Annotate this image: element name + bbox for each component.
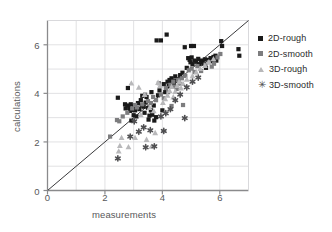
data-point-2d-smooth — [108, 134, 112, 138]
data-point-2d-rough — [237, 54, 241, 58]
data-point-2d-rough — [146, 117, 150, 121]
legend-label: 3D-rough — [269, 64, 307, 74]
data-point-3d-rough — [126, 144, 132, 149]
data-point-3d-rough — [152, 130, 158, 135]
legend-item-3d-smooth[interactable]: ✳3D-smooth — [258, 78, 314, 92]
data-point-3d-rough — [144, 137, 150, 142]
data-point-2d-rough — [116, 96, 120, 100]
data-point-2d-rough — [190, 62, 194, 66]
data-point-3d-smooth — [143, 145, 148, 150]
data-point-3d-smooth — [152, 144, 157, 149]
data-point-2d-rough — [219, 39, 223, 43]
data-point-2d-rough — [157, 88, 161, 92]
data-point-2d-smooth — [140, 102, 144, 106]
data-point-2d-rough — [155, 38, 159, 42]
data-point-2d-smooth — [195, 64, 199, 68]
square-marker-icon — [258, 51, 263, 56]
data-point-2d-rough — [159, 38, 163, 42]
legend-item-3d-rough[interactable]: 3D-rough — [258, 62, 307, 76]
data-point-2d-smooth — [117, 119, 121, 123]
legend-item-2d-smooth[interactable]: 2D-smooth — [258, 47, 313, 61]
data-point-2d-rough — [192, 44, 196, 48]
y-tick-label: 0 — [24, 185, 40, 196]
triangle-marker-icon — [258, 67, 264, 72]
data-point-3d-rough — [116, 148, 122, 153]
data-point-3d-smooth — [190, 79, 195, 84]
y-tick-label: 2 — [24, 136, 40, 147]
data-point-3d-smooth — [162, 128, 167, 133]
data-point-3d-smooth — [148, 128, 153, 133]
asterisk-marker-icon: ✳ — [258, 82, 264, 88]
data-point-3d-smooth — [164, 111, 169, 116]
data-point-2d-smooth — [159, 92, 163, 96]
data-point-3d-rough — [119, 135, 125, 140]
data-point-2d-rough — [134, 114, 138, 118]
x-axis-title: measurements — [0, 209, 248, 220]
identity-line — [48, 21, 249, 191]
data-point-2d-smooth — [154, 98, 158, 102]
x-tick-label: 0 — [45, 192, 50, 203]
data-point-3d-smooth — [178, 92, 183, 97]
data-point-2d-smooth — [164, 86, 168, 90]
data-point-3d-rough — [136, 84, 142, 89]
data-point-2d-smooth — [171, 80, 175, 84]
data-point-3d-smooth — [196, 75, 201, 80]
x-tick-label: 6 — [217, 192, 222, 203]
x-tick-label: 2 — [102, 192, 107, 203]
data-point-2d-rough — [126, 86, 130, 90]
legend-item-2d-rough[interactable]: 2D-rough — [258, 31, 306, 45]
data-point-2d-rough — [236, 47, 240, 51]
data-point-2d-rough — [142, 111, 146, 115]
data-point-3d-smooth — [168, 107, 173, 112]
data-point-3d-rough — [117, 143, 123, 148]
data-point-2d-rough — [183, 45, 187, 49]
data-point-2d-smooth — [135, 105, 139, 109]
y-tick-label: 4 — [24, 88, 40, 99]
legend-label: 3D-smooth — [269, 80, 314, 90]
data-point-3d-smooth — [159, 114, 164, 119]
data-point-2d-rough — [139, 98, 143, 102]
data-point-2d-smooth — [218, 52, 222, 56]
data-point-3d-smooth — [141, 125, 146, 130]
x-tick-label: 4 — [160, 192, 165, 203]
y-tick-label: 6 — [24, 39, 40, 50]
scatter-chart-figure: 0246 0246 measurements calculations 2D-r… — [0, 0, 332, 232]
data-point-3d-smooth — [132, 119, 137, 124]
data-point-2d-rough — [154, 115, 158, 119]
data-point-2d-rough — [149, 90, 153, 94]
data-point-2d-smooth — [125, 111, 129, 115]
data-point-3d-smooth — [137, 129, 142, 134]
data-point-3d-smooth — [185, 85, 190, 90]
data-point-3d-smooth — [182, 116, 187, 121]
data-point-2d-smooth — [181, 103, 185, 107]
data-point-2d-smooth — [149, 101, 153, 105]
data-point-2d-rough — [220, 44, 224, 48]
data-point-3d-smooth — [116, 156, 121, 161]
data-point-3d-smooth — [128, 134, 133, 139]
identity-reference-line — [48, 21, 249, 191]
data-point-2d-rough — [165, 32, 169, 36]
y-axis-title: calculations — [11, 47, 22, 167]
data-point-2d-smooth — [121, 114, 125, 118]
legend-label: 2D-rough — [268, 33, 306, 43]
data-point-2d-rough — [162, 82, 166, 86]
data-point-2d-smooth — [212, 62, 216, 66]
legend-label: 2D-smooth — [268, 49, 313, 59]
data-point-3d-smooth — [173, 98, 178, 103]
square-marker-icon — [258, 36, 263, 41]
